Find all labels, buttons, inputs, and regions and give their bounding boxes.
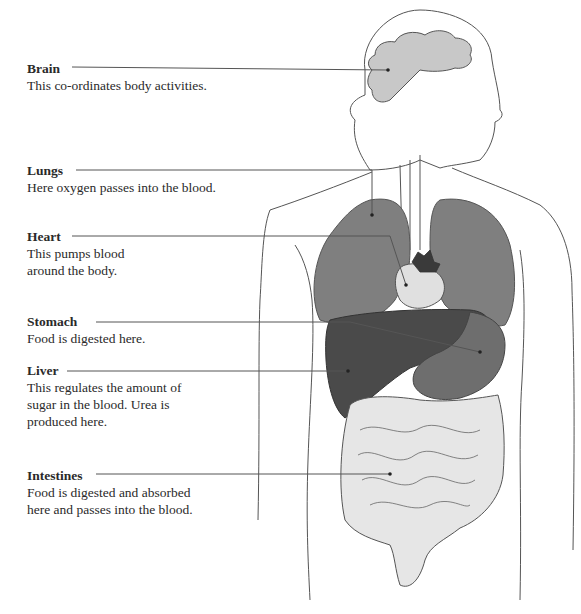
label-desc: Here oxygen passes into the blood. [27, 179, 216, 196]
label-title: Stomach [27, 313, 145, 330]
label-title: Heart [27, 228, 125, 245]
right-lung [430, 199, 515, 326]
intestines-organ [341, 395, 504, 586]
label-desc: sugar in the blood. Urea is [27, 396, 181, 413]
label-desc: This pumps blood [27, 245, 125, 262]
label-lungs: Lungs Here oxygen passes into the blood. [27, 162, 216, 196]
label-desc: This regulates the amount of [27, 379, 181, 396]
label-desc: Food is digested here. [27, 330, 145, 347]
label-title: Lungs [27, 162, 216, 179]
label-brain: Brain This co-ordinates body activities. [27, 60, 207, 94]
label-desc: around the body. [27, 262, 125, 279]
label-desc: Food is digested and absorbed [27, 484, 193, 501]
label-title: Intestines [27, 467, 193, 484]
label-intestines: Intestines Food is digested and absorbed… [27, 467, 193, 518]
label-desc: This co-ordinates body activities. [27, 77, 207, 94]
label-desc: here and passes into the blood. [27, 501, 193, 518]
label-liver: Liver This regulates the amount of sugar… [27, 362, 181, 430]
label-title: Liver [27, 362, 181, 379]
label-desc: produced here. [27, 413, 181, 430]
brain-organ [368, 31, 472, 102]
left-lung [314, 199, 410, 324]
label-title: Brain [27, 60, 207, 77]
label-stomach: Stomach Food is digested here. [27, 313, 145, 347]
label-heart: Heart This pumps blood around the body. [27, 228, 125, 279]
